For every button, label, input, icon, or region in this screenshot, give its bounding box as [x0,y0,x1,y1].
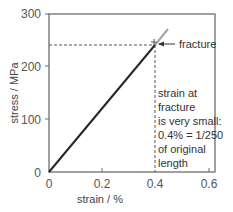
x-tick-label: 0 [46,177,53,191]
y-tick-label: 0 [34,166,41,180]
note-line: of original [158,143,206,155]
note-line: is very small: [158,115,222,127]
x-tick-label: 0.4 [147,177,164,191]
stress-strain-line [49,45,155,172]
fracture-label: fracture [179,38,216,50]
y-tick-label: 200 [21,60,41,74]
note-line: fracture [158,101,195,113]
strain-note: strain at fracture is very small: 0.4% =… [158,87,223,169]
note-line: strain at [158,87,197,99]
x-tick-label: 0.2 [94,177,111,191]
y-tick-label: 300 [21,7,41,21]
arrow-left-icon [158,42,164,47]
y-tick-label: 100 [21,113,41,127]
y-axis-label: stress / MPa [8,62,20,124]
x-axis: 0 0.2 0.4 0.6 strain / % [46,168,218,205]
stress-strain-chart: 300 200 100 0 stress / MPa 0 0.2 0.4 0.6… [0,0,233,212]
note-line: length [158,157,188,169]
x-tick-label: 0.6 [201,177,218,191]
y-axis: 300 200 100 0 stress / MPa [8,7,49,180]
x-axis-label: strain / % [77,193,123,205]
note-line: 0.4% = 1/250 [158,129,223,141]
fracture-annotation: fracture [158,38,216,50]
